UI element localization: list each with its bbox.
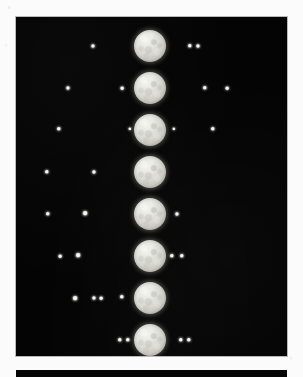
planet-disk: [134, 198, 166, 230]
satellite-dot: [180, 254, 184, 258]
satellite-dot: [99, 296, 103, 300]
planet-disk: [134, 240, 166, 272]
satellite-dot: [92, 296, 96, 300]
satellite-dot: [45, 170, 49, 174]
satellite-dot: [225, 86, 229, 90]
satellite-dot: [73, 296, 78, 301]
satellite-dot: [57, 127, 61, 131]
plate-caption: [0, 0, 1, 1]
bottom-plate-strip: [16, 370, 287, 377]
planet-disk: [134, 30, 166, 62]
satellite-dot: [126, 338, 130, 342]
satellite-dot: [91, 44, 95, 48]
satellite-dot: [188, 44, 192, 48]
planet-disk: [134, 72, 166, 104]
satellite-dot: [203, 86, 207, 90]
planet-disk: [134, 156, 166, 188]
satellite-dot: [211, 127, 215, 131]
satellite-dot: [120, 295, 124, 299]
planet-disk: [134, 114, 166, 146]
photographic-plate: [16, 17, 287, 356]
satellite-dot: [83, 211, 88, 216]
satellite-dot: [92, 170, 96, 174]
satellite-dot: [128, 127, 131, 130]
satellite-dot: [187, 338, 191, 342]
planet-disk: [134, 324, 166, 356]
satellite-dot: [76, 253, 81, 258]
satellite-dot: [179, 338, 183, 342]
planet-disk: [134, 282, 166, 314]
satellite-dot: [46, 212, 50, 216]
satellite-dot: [120, 86, 124, 90]
satellite-dot: [172, 127, 175, 130]
satellite-dot: [66, 86, 70, 90]
satellite-dot: [118, 338, 122, 342]
satellite-dot: [175, 212, 179, 216]
satellite-dot: [58, 254, 62, 258]
page-canvas: [0, 0, 303, 377]
satellite-dot: [170, 254, 174, 258]
satellite-dot: [196, 44, 200, 48]
